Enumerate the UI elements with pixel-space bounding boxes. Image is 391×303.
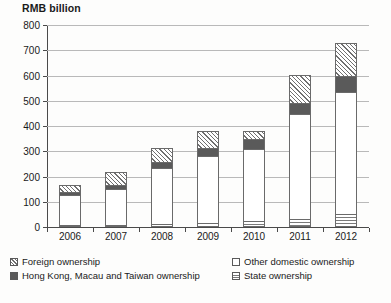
y-tick-mark — [43, 177, 47, 178]
bar-2011[interactable] — [289, 75, 311, 227]
bar-segment-state-2010[interactable] — [243, 221, 265, 227]
x-tick-mark — [47, 228, 48, 232]
bar-segment-other-2012[interactable] — [335, 92, 357, 214]
x-tick-mark — [369, 228, 370, 232]
x-tick-label-2011: 2011 — [289, 231, 311, 242]
bar-segment-state-2011[interactable] — [289, 219, 311, 227]
x-tick-mark — [277, 228, 278, 232]
gridline — [47, 126, 369, 127]
bar-segment-foreign-2009[interactable] — [197, 131, 219, 149]
gridline — [47, 101, 369, 102]
legend-item-state[interactable]: State ownership — [232, 270, 312, 281]
bar-segment-state-2006[interactable] — [59, 225, 81, 227]
x-tick-mark — [185, 228, 186, 232]
y-tick-label: 400 — [6, 121, 40, 132]
bar-2010[interactable] — [243, 131, 265, 227]
x-tick-mark — [139, 228, 140, 232]
x-axis-line — [47, 227, 369, 228]
plot-area: 0100200300400500600700800 20062007200820… — [47, 25, 369, 228]
y-tick-mark — [43, 101, 47, 102]
x-tick-label-2006: 2006 — [59, 231, 81, 242]
bar-segment-foreign-2008[interactable] — [151, 148, 173, 162]
y-tick-mark — [43, 126, 47, 127]
bar-segment-state-2009[interactable] — [197, 223, 219, 227]
x-tick-mark — [231, 228, 232, 232]
y-tick-label: 500 — [6, 95, 40, 106]
legend-label-foreign: Foreign ownership — [22, 256, 100, 267]
bar-2009[interactable] — [197, 131, 219, 227]
bar-segment-other-2009[interactable] — [197, 156, 219, 222]
legend-swatch-hkmt-icon — [10, 272, 18, 280]
bar-segment-foreign-2011[interactable] — [289, 75, 311, 103]
bar-segment-foreign-2007[interactable] — [105, 172, 127, 185]
bar-segment-other-2006[interactable] — [59, 195, 81, 225]
bar-segment-foreign-2012[interactable] — [335, 43, 357, 75]
x-tick-mark — [93, 228, 94, 232]
bar-2008[interactable] — [151, 148, 173, 227]
legend-swatch-state-icon — [232, 272, 240, 280]
y-tick-mark — [43, 202, 47, 203]
x-tick-label-2009: 2009 — [197, 231, 219, 242]
gridline — [47, 76, 369, 77]
bar-segment-state-2008[interactable] — [151, 224, 173, 227]
y-tick-mark — [43, 76, 47, 77]
bar-segment-state-2012[interactable] — [335, 214, 357, 227]
gridline — [47, 50, 369, 51]
chart-title: RMB billion — [22, 2, 81, 14]
bar-segment-hkmt-2012[interactable] — [335, 76, 357, 93]
y-tick-label: 600 — [6, 70, 40, 81]
bar-segment-other-2011[interactable] — [289, 114, 311, 219]
y-tick-label: 800 — [6, 20, 40, 31]
legend-swatch-other-icon — [232, 258, 240, 266]
x-tick-label-2007: 2007 — [105, 231, 127, 242]
y-tick-label: 200 — [6, 171, 40, 182]
y-tick-label: 300 — [6, 146, 40, 157]
bar-2007[interactable] — [105, 172, 127, 227]
bar-2012[interactable] — [335, 43, 357, 227]
bar-segment-foreign-2010[interactable] — [243, 131, 265, 140]
bar-2006[interactable] — [59, 185, 81, 227]
y-tick-label: 0 — [6, 222, 40, 233]
legend-item-other[interactable]: Other domestic ownership — [232, 256, 354, 267]
legend-label-hkmt: Hong Kong, Macau and Taiwan ownership — [22, 270, 200, 281]
y-tick-label: 700 — [6, 45, 40, 56]
y-tick-mark — [43, 50, 47, 51]
legend-label-state: State ownership — [244, 270, 312, 281]
x-tick-label-2012: 2012 — [335, 231, 357, 242]
bar-segment-foreign-2006[interactable] — [59, 185, 81, 192]
bar-segment-hkmt-2009[interactable] — [197, 148, 219, 156]
x-tick-mark — [323, 228, 324, 232]
chart-legend: Foreign ownershipOther domestic ownershi… — [10, 256, 385, 284]
legend-row: Foreign ownershipOther domestic ownershi… — [10, 256, 385, 270]
y-tick-mark — [43, 151, 47, 152]
legend-row: Hong Kong, Macau and Taiwan ownershipSta… — [10, 270, 385, 284]
bar-segment-other-2010[interactable] — [243, 149, 265, 222]
legend-item-foreign[interactable]: Foreign ownership — [10, 256, 232, 267]
bar-segment-other-2008[interactable] — [151, 168, 173, 224]
y-tick-mark — [43, 25, 47, 26]
bar-segment-hkmt-2010[interactable] — [243, 139, 265, 148]
x-tick-label-2010: 2010 — [243, 231, 265, 242]
bar-segment-state-2007[interactable] — [105, 225, 127, 227]
legend-label-other: Other domestic ownership — [244, 256, 354, 267]
bar-segment-hkmt-2011[interactable] — [289, 103, 311, 114]
y-tick-label: 100 — [6, 196, 40, 207]
gridline — [47, 25, 369, 26]
bar-segment-other-2007[interactable] — [105, 189, 127, 225]
legend-item-hkmt[interactable]: Hong Kong, Macau and Taiwan ownership — [10, 270, 232, 281]
legend-swatch-foreign-icon — [10, 258, 18, 266]
x-tick-label-2008: 2008 — [151, 231, 173, 242]
